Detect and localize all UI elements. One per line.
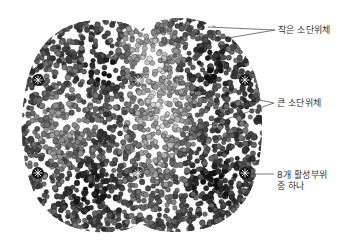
asterisk-icon	[132, 74, 144, 86]
asterisk-icon	[32, 74, 44, 86]
asterisk-icon	[32, 167, 44, 179]
molecule-body	[17, 13, 267, 238]
leader-small-1	[208, 27, 275, 30]
label-active-site-line1: 8개 활성부위	[277, 170, 327, 181]
rubisco-diagram: 작은 소단위체 큰 소단위체 8개 활성부위 중 하나	[0, 0, 354, 250]
label-active-site: 8개 활성부위 중 하나	[277, 170, 327, 192]
label-small-subunit: 작은 소단위체	[278, 25, 330, 36]
asterisk-icon	[239, 74, 251, 86]
molecule-illustration	[0, 0, 354, 250]
label-active-site-line2: 중 하나	[277, 181, 327, 192]
leader-small-2	[228, 30, 275, 38]
asterisk-icon	[132, 167, 144, 179]
asterisk-icon	[239, 167, 251, 179]
label-large-subunit: 큰 소단위체	[277, 98, 321, 109]
